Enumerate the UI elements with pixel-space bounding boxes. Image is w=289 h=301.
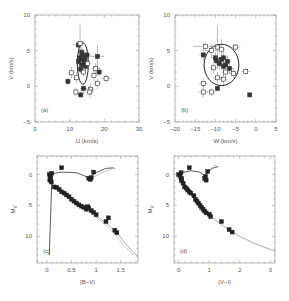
panel-a-velocity-uv: 0102030−50510U (km/s)V (km/s)(a) bbox=[8, 12, 143, 144]
data-point bbox=[66, 79, 70, 83]
data-point bbox=[80, 52, 84, 56]
data-point bbox=[201, 90, 205, 94]
data-point bbox=[224, 63, 228, 67]
data-point bbox=[49, 180, 53, 184]
data-point bbox=[215, 76, 219, 80]
x-tick-label: 0 bbox=[45, 267, 49, 273]
data-point bbox=[83, 57, 87, 61]
data-point bbox=[78, 42, 82, 46]
panel-b-velocity-wv: −20−15−10−505−50510W (km/s)V (km/s)(b) bbox=[148, 12, 278, 144]
data-point bbox=[215, 45, 219, 49]
data-point bbox=[97, 70, 101, 74]
data-point bbox=[221, 77, 225, 81]
x-tick-label: 20 bbox=[101, 126, 108, 132]
y-tick-label: 0 bbox=[166, 172, 170, 178]
x-tick-label: −20 bbox=[170, 126, 181, 132]
data-point bbox=[95, 81, 99, 85]
x-axis-label: (B−V) bbox=[80, 279, 96, 285]
data-point bbox=[215, 86, 219, 90]
data-point bbox=[50, 171, 54, 175]
data-point bbox=[88, 90, 92, 94]
y-tick-label: 5 bbox=[29, 202, 33, 208]
x-tick-label: 0 bbox=[254, 126, 258, 132]
y-tick-label: 10 bbox=[163, 12, 170, 18]
x-axis-label: (V−I) bbox=[218, 279, 231, 285]
data-point bbox=[115, 231, 119, 235]
data-point bbox=[209, 215, 213, 219]
y-tick-label: 0 bbox=[29, 172, 33, 178]
y-axis-label: V (km/s) bbox=[8, 57, 14, 79]
data-point bbox=[77, 59, 81, 63]
y-tick-label: 10 bbox=[23, 12, 30, 18]
panel-label: (b) bbox=[181, 107, 188, 113]
x-tick-label: 0 bbox=[33, 126, 37, 132]
panel-label: (a) bbox=[41, 107, 48, 113]
data-point bbox=[181, 181, 185, 185]
x-tick-label: 5 bbox=[274, 126, 278, 132]
data-point bbox=[82, 70, 86, 74]
data-point bbox=[204, 174, 208, 178]
panel-label: (d) bbox=[180, 248, 187, 254]
x-tick-label: 0 bbox=[177, 267, 181, 273]
x-axis-label: U (km/s) bbox=[76, 138, 99, 144]
data-point bbox=[74, 90, 78, 94]
data-point bbox=[203, 44, 207, 48]
y-tick-label: −5 bbox=[163, 119, 171, 125]
data-point bbox=[234, 45, 238, 49]
data-point bbox=[230, 230, 234, 234]
y-tick-label: 0 bbox=[27, 83, 31, 89]
x-tick-label: 10 bbox=[66, 126, 73, 132]
data-point bbox=[232, 71, 236, 75]
data-point bbox=[106, 216, 110, 220]
y-tick-label: 5 bbox=[167, 48, 171, 54]
data-point bbox=[209, 90, 213, 94]
x-tick-label: 3 bbox=[269, 267, 273, 273]
data-point bbox=[104, 76, 108, 80]
data-point bbox=[201, 53, 205, 57]
data-point bbox=[95, 54, 99, 58]
plot-frame bbox=[174, 156, 275, 263]
data-point bbox=[86, 62, 90, 66]
data-point bbox=[192, 194, 196, 198]
x-tick-label: −10 bbox=[210, 126, 221, 132]
figure: 0102030−50510U (km/s)V (km/s)(a) −20−15−… bbox=[0, 0, 289, 301]
data-point bbox=[248, 93, 252, 97]
data-point bbox=[244, 69, 248, 73]
data-point bbox=[179, 171, 183, 175]
x-tick-label: 1.5 bbox=[117, 267, 126, 273]
data-point bbox=[187, 166, 191, 170]
data-point bbox=[94, 213, 98, 217]
x-tick-label: 30 bbox=[136, 126, 143, 132]
x-tick-label: −15 bbox=[190, 126, 201, 132]
data-point bbox=[209, 49, 213, 53]
isochrone-line bbox=[49, 168, 113, 255]
y-tick-label: 10 bbox=[25, 233, 32, 239]
x-tick-label: 0.5 bbox=[67, 267, 76, 273]
data-point bbox=[219, 220, 223, 224]
data-point bbox=[214, 59, 218, 63]
y-tick-label: 5 bbox=[27, 48, 31, 54]
panel-d-cmd-vi: 01230510(V−I)MV(d) bbox=[147, 156, 275, 285]
data-point bbox=[86, 205, 90, 209]
data-point bbox=[104, 220, 108, 224]
y-tick-label: 0 bbox=[167, 83, 171, 89]
y-axis-label: MV bbox=[10, 205, 18, 213]
y-axis-label: MV bbox=[147, 205, 155, 213]
data-point bbox=[92, 74, 96, 78]
data-point bbox=[89, 176, 93, 180]
data-point bbox=[69, 71, 73, 75]
y-tick-label: 5 bbox=[166, 202, 170, 208]
data-point bbox=[228, 67, 232, 71]
data-point bbox=[211, 66, 215, 70]
y-tick-label: −5 bbox=[23, 119, 31, 125]
data-point bbox=[219, 57, 223, 61]
data-point bbox=[201, 81, 205, 85]
y-axis-label: V (km/s) bbox=[148, 57, 154, 79]
data-point bbox=[224, 70, 228, 74]
data-point bbox=[82, 86, 86, 90]
x-tick-label: 1 bbox=[94, 267, 98, 273]
panel-label: (c) bbox=[43, 248, 50, 254]
panel-c-cmd-bv: 00.511.50510(B−V)MV(c) bbox=[10, 156, 138, 285]
x-tick-label: 2 bbox=[238, 267, 242, 273]
data-point bbox=[206, 169, 210, 173]
